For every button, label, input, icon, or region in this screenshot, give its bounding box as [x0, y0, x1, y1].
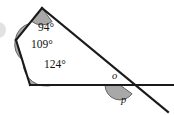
angle-label-109: 109° [31, 39, 53, 51]
angle-label-124: 124° [44, 59, 66, 71]
left-edge-artifact [0, 22, 6, 38]
angle-label-p: p [121, 95, 126, 106]
angle-label-94: 94° [38, 22, 54, 34]
edge-upper-left-to-bottom-left [16, 40, 30, 85]
figure-canvas [0, 0, 174, 115]
angle-arc-p [105, 85, 132, 100]
angle-label-o: o [112, 71, 117, 82]
geometry-figure: 94° 109° 124° o p [0, 0, 174, 115]
